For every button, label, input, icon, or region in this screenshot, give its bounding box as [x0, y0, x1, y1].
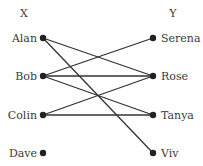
bipartite-graph: X Y Alan Bob Colin Dave Serena Rose Tany… [0, 0, 203, 166]
edges [43, 38, 153, 153]
node-viv [150, 150, 156, 156]
node-label-viv: Viv [160, 147, 179, 160]
node-label-colin: Colin [8, 109, 37, 122]
set-label-y: Y [168, 7, 177, 20]
node-label-serena: Serena [161, 32, 201, 45]
node-label-rose: Rose [161, 70, 188, 83]
node-alan [40, 35, 46, 41]
node-label-dave: Dave [9, 147, 37, 160]
node-dave [40, 150, 46, 156]
node-rose [150, 73, 156, 79]
node-serena [150, 35, 156, 41]
node-tanya [150, 112, 156, 118]
node-colin [40, 112, 46, 118]
node-label-alan: Alan [11, 32, 37, 45]
right-nodes: Serena Rose Tanya Viv [150, 32, 201, 160]
node-label-tanya: Tanya [161, 109, 194, 122]
set-label-x: X [20, 7, 28, 20]
node-bob [40, 73, 46, 79]
left-nodes: Alan Bob Colin Dave [8, 32, 46, 160]
node-label-bob: Bob [15, 70, 37, 83]
